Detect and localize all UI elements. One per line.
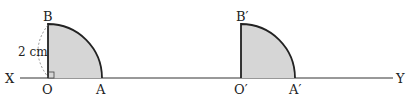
label-x: X bbox=[5, 71, 15, 86]
diagram: X Y O A B 2 cm O′ A′ B′ bbox=[0, 0, 410, 99]
label-b: B bbox=[43, 9, 53, 24]
label-b-prime: B′ bbox=[236, 9, 249, 24]
label-radius: 2 cm bbox=[18, 45, 48, 59]
label-o: O bbox=[42, 82, 53, 97]
label-y: Y bbox=[395, 71, 405, 86]
label-a-prime: A′ bbox=[288, 82, 301, 97]
label-o-prime: O′ bbox=[234, 82, 248, 97]
label-a: A bbox=[95, 82, 106, 97]
